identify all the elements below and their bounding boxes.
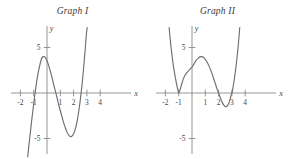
graph-i-svg: -2 -1 1 2 3 4 5 -5 x y (0, 18, 145, 159)
panel-graph-ii: Graph II -2 -1 1 2 (145, 0, 290, 159)
graph-ii-xticklabel-4: 4 (243, 98, 247, 107)
graph-i-xticklabel-2: 2 (72, 98, 76, 107)
graph-ii-yticklabel--5: -5 (179, 134, 185, 143)
graph-i-yticklabel-5: 5 (37, 43, 41, 52)
graph-ii-curve (169, 27, 240, 106)
graph-ii-title: Graph II (145, 6, 290, 16)
graph-ii-xticklabel-1: 1 (203, 98, 207, 107)
graph-i-xticklabel--2: -2 (17, 98, 23, 107)
graph-ii-yticklabel-5: 5 (182, 43, 186, 52)
graph-ii-plot: -2 -1 1 2 3 4 5 -5 x y (145, 18, 290, 159)
graph-i-title: Graph I (0, 6, 145, 16)
graph-i-y-axis-label: y (49, 24, 54, 33)
graph-ii-xticklabel--1: -1 (176, 98, 182, 107)
graph-i-xticklabel-4: 4 (98, 98, 102, 107)
graph-i-xticklabel-3: 3 (85, 98, 89, 107)
graph-ii-y-axis-label: y (194, 24, 199, 33)
graph-ii-xticklabel--2: -2 (162, 98, 168, 107)
graph-i-plot: -2 -1 1 2 3 4 5 -5 x y (0, 18, 145, 159)
graph-ii-svg: -2 -1 1 2 3 4 5 -5 x y (145, 18, 290, 159)
graph-i-x-axis-label: x (133, 89, 138, 98)
graphs-figure: Graph I -2 -1 1 2 (0, 0, 290, 159)
graph-ii-x-axis-label: x (278, 89, 283, 98)
graph-i-yticklabel--5: -5 (34, 134, 40, 143)
panel-graph-i: Graph I -2 -1 1 2 (0, 0, 145, 159)
